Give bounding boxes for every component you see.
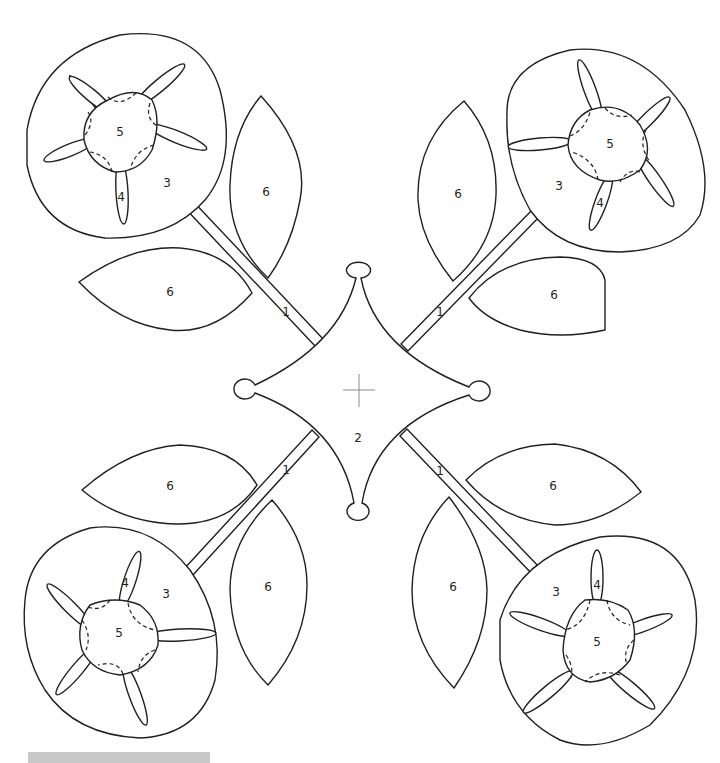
label-flower-back: 3: [163, 176, 171, 190]
label-stem: 1: [282, 463, 290, 477]
label-flower-center: 5: [606, 137, 614, 151]
pattern-diagram: 1 1 1 1 2 6 6 6 6 6 6: [0, 0, 720, 763]
label-flower-back: 3: [162, 587, 170, 601]
label-flower-back: 3: [555, 179, 563, 193]
label-flower-center: 5: [116, 125, 124, 139]
label-leaf: 6: [166, 285, 174, 299]
leaf-bl-vertical: 6: [230, 500, 307, 685]
leaf-br-horizontal: 6: [466, 444, 641, 525]
label-stem: 1: [282, 305, 290, 319]
label-leaf: 6: [549, 479, 557, 493]
flower-bottom-left: 5 4 3: [24, 527, 217, 738]
label-flower-back: 3: [552, 585, 560, 599]
label-stem: 1: [436, 464, 444, 478]
leaf-bl-horizontal: 6: [82, 445, 257, 524]
leaf-tr-vertical: 6: [418, 101, 496, 281]
label-petal: 4: [596, 196, 604, 210]
label-flower-center: 5: [115, 626, 123, 640]
label-leaf: 6: [166, 479, 174, 493]
label-center: 2: [354, 431, 362, 445]
label-petal: 4: [117, 190, 125, 204]
label-leaf: 6: [264, 580, 272, 594]
leaf-tl-horizontal: 6: [79, 248, 252, 331]
label-petal: 4: [593, 578, 601, 592]
label-leaf: 6: [262, 185, 270, 199]
label-leaf: 6: [550, 288, 558, 302]
label-leaf: 6: [449, 580, 457, 594]
label-leaf: 6: [454, 187, 462, 201]
footer-bar: [28, 752, 210, 763]
flower-top-left: 5 4 3: [27, 34, 226, 238]
label-flower-center: 5: [593, 635, 601, 649]
label-petal: 4: [121, 576, 129, 590]
flower-top-right: 5 4 3: [507, 49, 705, 252]
leaf-br-vertical: 6: [412, 497, 487, 688]
label-stem: 1: [436, 305, 444, 319]
